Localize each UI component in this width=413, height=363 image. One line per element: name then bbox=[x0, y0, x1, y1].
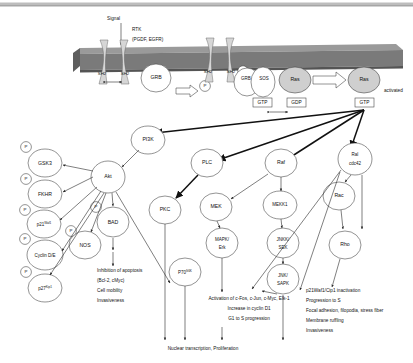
mapk-outcome-line-3: G1 to S progression bbox=[228, 316, 270, 321]
fkhr-node: FKHR P bbox=[21, 174, 62, 208]
rac-node: Rac bbox=[323, 182, 355, 210]
rho-outcome-line-1: p21Waf1/Cip1 inactivation bbox=[306, 288, 361, 293]
jnk-sapk-node: JNK/ SAPK bbox=[267, 264, 299, 294]
gsk3-node: GSK3 P bbox=[21, 142, 62, 177]
rtk-label: RTK bbox=[132, 27, 142, 32]
mapk-outcome-line-1: Activation of c-Fos, c-Jun, c-Myc, Elk-1 bbox=[208, 296, 289, 301]
gdp-label: GDP bbox=[291, 100, 301, 105]
nos-phospho-label: P bbox=[70, 228, 73, 233]
transition-arrow-1 bbox=[176, 85, 198, 97]
p21-phospho-label: P bbox=[24, 207, 27, 212]
nos-label: NOS bbox=[79, 242, 91, 248]
mek-node: MEK bbox=[200, 193, 232, 221]
sh2-domain-label-2: SH2 bbox=[121, 71, 130, 76]
p70s6k-node: P70S6K bbox=[169, 258, 201, 286]
plc-node: PLC bbox=[191, 149, 223, 177]
p27-phospho-label: P bbox=[25, 269, 28, 274]
rho-outcome-line-4: Membrane ruffling bbox=[306, 318, 344, 323]
akt-outcome-line-4: Invasiveness bbox=[97, 298, 125, 303]
gsk3-label: GSK3 bbox=[38, 160, 52, 166]
ras-activation-arrow bbox=[313, 72, 346, 88]
pi3k-node: PI3K bbox=[131, 126, 165, 154]
sos-label: SOS bbox=[259, 76, 269, 81]
gtp-box-1: GTP bbox=[253, 98, 272, 107]
p27-sup: Kip1 bbox=[46, 285, 52, 289]
top-border-bar bbox=[0, 3, 413, 6]
cyclin-de-label: Cyclin D/E bbox=[34, 253, 55, 258]
phospho-label-1: P bbox=[204, 83, 207, 88]
mekk1-node: MEKK1 bbox=[263, 191, 297, 219]
rho-node: Rho bbox=[329, 231, 361, 259]
cyclin-phospho-label: P bbox=[24, 236, 27, 241]
pkc-node: PKC bbox=[149, 196, 181, 224]
rho-label: Rho bbox=[340, 241, 350, 247]
rtk-ligands-label: (PGDF, EGFR) bbox=[132, 37, 164, 42]
gsk3-phospho-label: P bbox=[25, 144, 28, 149]
mapk-erk-label-line2: Erk bbox=[219, 245, 227, 250]
fkhr-phospho-label: P bbox=[25, 176, 28, 181]
mapk-outcome-line-2: Increase in cyclin D1 bbox=[227, 306, 271, 311]
ral-label-line1: Ral bbox=[352, 152, 359, 157]
akt-outcome-line-3: Cell mobility bbox=[97, 288, 123, 293]
grb-left-node: GRB bbox=[141, 64, 171, 92]
sh2-domain-label-3: SH2 bbox=[204, 69, 213, 74]
akt-outcome-block: Inhibition of apoptosis (Bcl-2, cMyc) Ce… bbox=[97, 268, 143, 303]
pi3k-label: PI3K bbox=[142, 136, 154, 142]
pkc-label: PKC bbox=[160, 206, 171, 212]
akt-label: Akt bbox=[104, 173, 112, 179]
p27-node: p27Kip1 P bbox=[21, 267, 62, 302]
fkhr-label: FKHR bbox=[38, 191, 52, 197]
ras-active-label: Ras bbox=[359, 76, 369, 82]
nos-node: NOS P bbox=[66, 226, 101, 259]
mapk-erk-node: MAPK/ Erk bbox=[206, 228, 238, 258]
mekk1-label: MEKK1 bbox=[272, 202, 288, 207]
gdp-box: GDP bbox=[287, 98, 306, 107]
mapk-erk-label-line1: MAPK/ bbox=[215, 237, 230, 242]
rho-outcome-block: p21Waf1/Cip1 inactivation Progression to… bbox=[306, 288, 384, 333]
signal-label: Signal bbox=[107, 16, 120, 21]
sh2-domain-label-1: SH2 bbox=[98, 71, 107, 76]
gtp-box-2: GTP bbox=[355, 98, 374, 107]
raf-node: Raf bbox=[265, 149, 297, 177]
jnkk-label-line1: JNKK/ bbox=[277, 237, 291, 242]
sos-node: SOS bbox=[251, 67, 275, 97]
p21-sup: Waf1 bbox=[44, 221, 51, 225]
activated-label: activated bbox=[384, 88, 403, 93]
gtp-label-1: GTP bbox=[258, 100, 268, 105]
rac-label: Rac bbox=[334, 192, 344, 198]
ras-inactive-label: Ras bbox=[290, 76, 300, 82]
gtp-label-2: GTP bbox=[360, 100, 370, 105]
ral-label-line2: cdc42 bbox=[349, 161, 362, 166]
signal-arrow-group: Signal bbox=[107, 16, 121, 45]
raf-label: Raf bbox=[277, 159, 286, 165]
diagram-canvas: Signal SH2 SH2 RTK (PGDF, EGFR) GRB P SH… bbox=[0, 0, 413, 363]
bad-label: BAD bbox=[108, 219, 119, 225]
rho-outcome-line-3: Focal adhesion, filopodia, stress fiber bbox=[306, 308, 384, 313]
pathway-diagram: Signal SH2 SH2 RTK (PGDF, EGFR) GRB P SH… bbox=[0, 0, 413, 363]
grb-right-label: GRB bbox=[241, 76, 251, 81]
bad-node: BAD P bbox=[91, 202, 129, 237]
p70-sup: S6K bbox=[186, 269, 193, 273]
rtk-caption: RTK (PGDF, EGFR) bbox=[132, 27, 164, 42]
mapk-outcome-block: Activation of c-Fos, c-Jun, c-Myc, Elk-1… bbox=[208, 296, 289, 321]
cyclin-de-node: Cyclin D/E P bbox=[20, 234, 63, 270]
grb-left-label: GRB bbox=[150, 74, 162, 80]
plc-label: PLC bbox=[202, 159, 212, 165]
akt-outcome-line-2: (Bcl-2, cMyc) bbox=[97, 278, 125, 283]
ras-inactive-node: Ras bbox=[279, 67, 311, 93]
ral-cdc42-node: Ral cdc42 bbox=[338, 143, 372, 175]
ras-active-node: Ras bbox=[348, 67, 380, 93]
nuclear-transcription-label: Nuclear transcription, Proliferation bbox=[168, 346, 239, 351]
rho-outcome-line-5: Invasiveness bbox=[306, 328, 334, 333]
jnk-label-line2: SAPK bbox=[277, 281, 289, 286]
ras-downstream-fan bbox=[155, 110, 364, 160]
p21-node: p21Waf1 P bbox=[20, 205, 61, 238]
rho-outcome-line-2: Progression to S bbox=[306, 298, 341, 303]
akt-outcome-line-1: Inhibition of apoptosis bbox=[97, 268, 143, 273]
jnk-label-line1: JNK/ bbox=[278, 273, 289, 278]
mek-label: MEK bbox=[210, 203, 222, 209]
sh2-domain-label-4: SH2 bbox=[227, 69, 236, 74]
